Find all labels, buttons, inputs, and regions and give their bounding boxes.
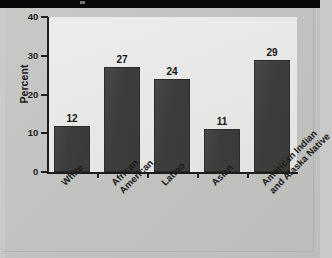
y-tick-label: 10 xyxy=(12,127,38,138)
x-tick-mark xyxy=(147,172,149,178)
y-tick-label: 30 xyxy=(12,50,38,61)
bar-value-label: 12 xyxy=(52,113,92,124)
bar xyxy=(154,79,190,172)
bar-value-label: 29 xyxy=(252,47,292,58)
top-black-band xyxy=(0,0,320,8)
y-tick-mark xyxy=(41,171,48,173)
bar-value-label: 11 xyxy=(202,116,242,127)
page-left-margin xyxy=(0,8,5,258)
x-tick-mark xyxy=(197,172,199,178)
y-tick-mark xyxy=(41,94,48,96)
y-tick-label: 40 xyxy=(12,11,38,22)
bar-value-label: 24 xyxy=(152,66,192,77)
bar-value-label: 27 xyxy=(102,54,142,65)
y-tick-mark xyxy=(41,132,48,134)
band-speck xyxy=(80,1,85,4)
y-tick-label: 0 xyxy=(12,166,38,177)
y-tick-mark xyxy=(41,55,48,57)
x-tick-mark xyxy=(247,172,249,178)
y-tick-label: 20 xyxy=(12,89,38,100)
y-axis-title: Percent xyxy=(18,51,30,117)
y-axis-line xyxy=(47,17,49,174)
x-tick-mark xyxy=(97,172,99,178)
y-tick-mark xyxy=(41,16,48,18)
